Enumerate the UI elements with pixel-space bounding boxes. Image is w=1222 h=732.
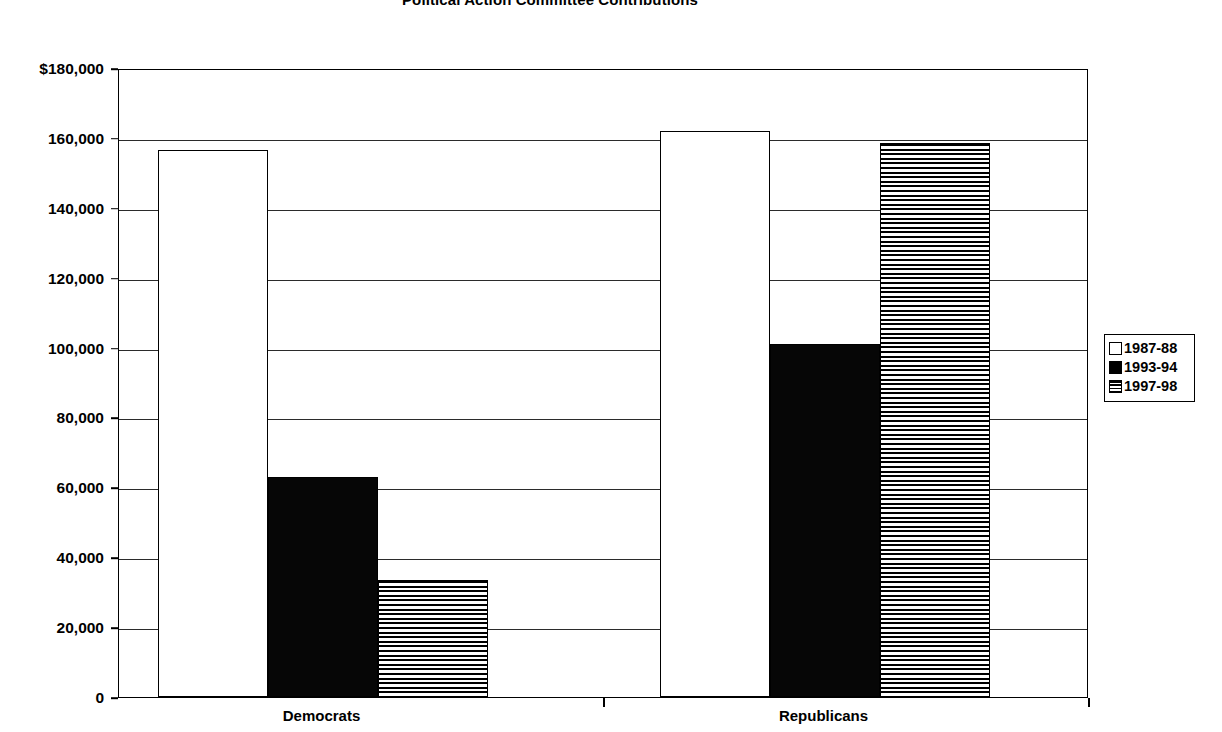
y-tick-label: 120,000: [48, 270, 104, 288]
y-tick-label: 80,000: [57, 409, 104, 427]
category-label-republicans: Republicans: [779, 707, 868, 724]
y-tick-mark: [111, 627, 118, 629]
legend-swatch-icon: [1109, 342, 1122, 355]
legend-swatch-icon: [1109, 380, 1122, 393]
category-label-democrats: Democrats: [283, 707, 361, 724]
y-tick-label: 20,000: [57, 619, 104, 637]
bar-democrats-1987-88: [158, 150, 268, 697]
chart-legend: 1987-881993-941997-98: [1104, 334, 1195, 402]
legend-label: 1997-98: [1124, 379, 1177, 394]
legend-item-1997-98: 1997-98: [1109, 377, 1191, 396]
y-tick-mark: [111, 488, 118, 490]
category-tick: [1088, 698, 1090, 707]
legend-label: 1993-94: [1124, 360, 1177, 375]
y-tick-mark: [111, 348, 118, 350]
y-tick-mark: [111, 557, 118, 559]
plot-area: [118, 69, 1088, 698]
bar-democrats-1993-94: [268, 477, 378, 697]
chart-title: Political Action Committee Contributions: [0, 0, 1100, 8]
gridline: [119, 140, 1087, 141]
y-tick-mark: [111, 418, 118, 420]
y-tick-label: 60,000: [57, 479, 104, 497]
y-tick-label: $180,000: [39, 60, 104, 78]
y-axis: $180,000160,000140,000120,000100,00080,0…: [0, 0, 104, 732]
bar-republicans-1997-98: [880, 143, 990, 697]
y-tick-mark: [111, 278, 118, 280]
category-tick: [603, 698, 605, 707]
bar-republicans-1987-88: [660, 131, 770, 697]
y-tick-mark: [111, 697, 118, 699]
y-tick-label: 140,000: [48, 200, 104, 218]
y-tick-mark: [111, 138, 118, 140]
legend-item-1987-88: 1987-88: [1109, 339, 1191, 358]
y-tick-label: 40,000: [57, 549, 104, 567]
y-tick-mark: [111, 208, 118, 210]
bar-republicans-1993-94: [770, 344, 880, 697]
y-tick-label: 160,000: [48, 130, 104, 148]
legend-item-1993-94: 1993-94: [1109, 358, 1191, 377]
bar-democrats-1997-98: [378, 580, 488, 697]
y-tick-label: 100,000: [48, 340, 104, 358]
legend-label: 1987-88: [1124, 341, 1177, 356]
legend-swatch-icon: [1109, 361, 1122, 374]
y-tick-label: 0: [95, 689, 104, 707]
y-tick-mark: [111, 68, 118, 70]
